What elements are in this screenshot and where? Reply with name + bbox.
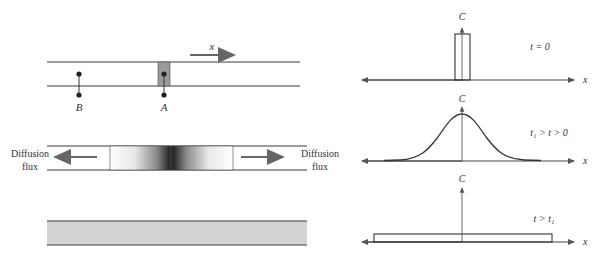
- plot-equilibrium: C x t > t₁: [362, 173, 588, 247]
- top-tube: x B A: [47, 40, 300, 113]
- point-a-marker: [161, 71, 166, 76]
- svg-text:C: C: [459, 173, 466, 184]
- svg-text:x: x: [582, 236, 588, 247]
- bottom-tube: [47, 221, 307, 245]
- x-axis-label: x: [209, 40, 215, 52]
- initial-pulse: [455, 34, 470, 80]
- uniform-profile: [374, 234, 552, 242]
- left-flux-label-line2: flux: [22, 161, 38, 172]
- svg-text:C: C: [459, 93, 466, 104]
- plot-t0: C x t = 0: [362, 11, 588, 85]
- point-b-marker: [76, 71, 81, 76]
- condition-label: t > t₁: [534, 213, 555, 224]
- svg-text:x: x: [582, 74, 588, 85]
- point-b-label: B: [76, 101, 83, 113]
- middle-tube: Diffusion flux Diffusion flux: [11, 146, 339, 172]
- condition-label: t₁ > t > 0: [530, 127, 568, 138]
- point-a-label: A: [160, 101, 168, 113]
- svg-text:x: x: [582, 155, 588, 166]
- concentration-gradient: [110, 146, 233, 170]
- right-flux-label-line1: Diffusion: [301, 148, 339, 159]
- diffusion-diagram: x B A Diffusion flux Diffusion flux: [0, 0, 598, 259]
- condition-label: t = 0: [530, 41, 550, 52]
- plot-intermediate: C x t₁ > t > 0: [362, 93, 588, 166]
- uniform-band: [47, 221, 307, 245]
- svg-text:C: C: [459, 11, 466, 22]
- left-flux-label-line1: Diffusion: [11, 148, 49, 159]
- right-flux-label-line2: flux: [312, 161, 328, 172]
- gaussian-curve: [384, 114, 541, 161]
